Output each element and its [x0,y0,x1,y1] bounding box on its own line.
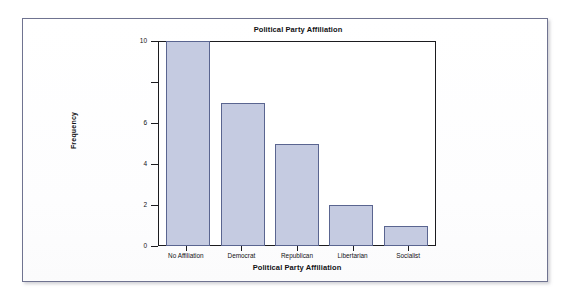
y-tick-label: 4 [121,160,147,167]
bar [275,144,319,247]
bars-group [158,41,436,246]
y-tick-mark [151,205,158,206]
y-tick-label: 10 [121,37,147,44]
x-tick-mark [241,246,242,251]
x-category-label: Democrat [214,252,270,259]
x-category-label: No Affiliation [158,252,214,259]
y-tick-mark [151,82,158,83]
bar [166,41,210,246]
bar [329,205,373,246]
chart-title: Political Party Affiliation [158,25,438,34]
y-axis-title: Frequency [70,71,77,191]
x-category-label: Socialist [380,252,436,259]
x-tick-mark [297,246,298,251]
chart-card: Political Party Affiliation Frequency 02… [22,18,548,282]
x-tick-mark [186,246,187,251]
y-tick-label: 0 [121,242,147,249]
x-axis-categories: No AffiliationDemocratRepublicanLibertar… [158,252,436,259]
bar-chart: Political Party Affiliation Frequency 02… [23,19,549,283]
x-category-label: Libertarian [325,252,381,259]
x-tick-mark [408,246,409,251]
page-root: Political Party Affiliation Frequency 02… [0,0,572,300]
x-axis-title: Political Party Affiliation [158,263,436,272]
x-category-label: Republican [269,252,325,259]
bar [384,226,428,247]
y-tick-mark [151,246,158,247]
y-tick-mark [151,123,158,124]
y-tick-label: 2 [121,201,147,208]
y-tick-mark [151,41,158,42]
x-tick-mark [353,246,354,251]
y-tick-mark [151,164,158,165]
y-tick-label: 6 [121,119,147,126]
bar [221,103,265,247]
